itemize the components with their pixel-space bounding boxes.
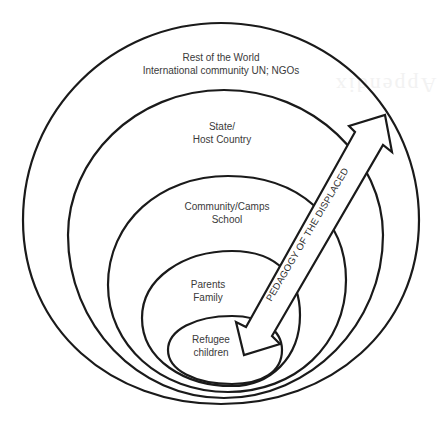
label-world-line-1: Rest of the World [182, 52, 259, 63]
pedagogy-diagram: Appendix Rest of the World International… [0, 0, 439, 429]
arrow-label: PEDAGOGY OF THE DISPLACED [263, 166, 350, 303]
label-children-line-1: Refugee [192, 334, 230, 345]
bleed-through-text: Appendix [334, 73, 437, 98]
label-state-line-2: Host Country [193, 134, 251, 145]
label-community-line-2: School [212, 214, 243, 225]
label-world-line-2: International community UN; NGOs [143, 65, 300, 76]
label-family-line-2: Family [193, 292, 222, 303]
label-community-line-1: Community/Camps [184, 201, 269, 212]
pedagogy-arrow: PEDAGOGY OF THE DISPLACED [236, 115, 392, 355]
label-family-line-1: Parents [191, 279, 225, 290]
label-state-line-1: State/ [209, 121, 235, 132]
double-headed-arrow-icon [236, 115, 392, 355]
label-children-line-2: children [193, 347, 228, 358]
